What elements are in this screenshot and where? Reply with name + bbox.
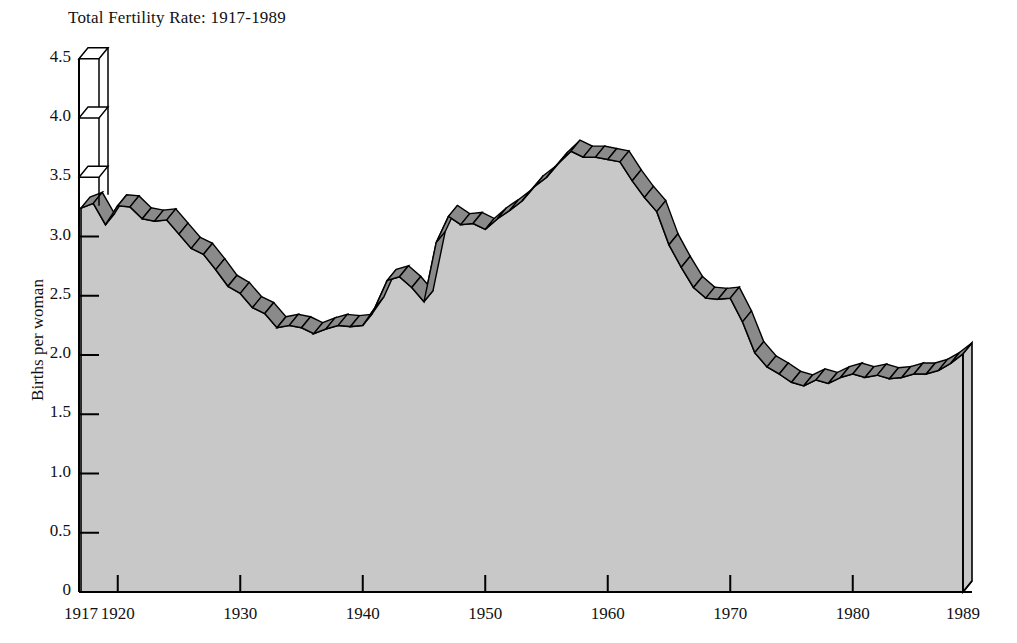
y-tick-label: 3.5 (23, 165, 71, 185)
x-tick-label: 1940 (333, 604, 393, 624)
x-tick-label: 1960 (578, 604, 638, 624)
x-tick-label: 1989 (933, 604, 993, 624)
y-tick-label: 4.0 (23, 106, 71, 126)
x-tick-label: 1980 (823, 604, 883, 624)
y-tick-label: 4.5 (23, 47, 71, 67)
plot-area (0, 0, 1017, 643)
x-tick-label: 1920 (88, 604, 148, 624)
y-tick-label: 2.0 (23, 343, 71, 363)
y-tick-label: 3.0 (23, 225, 71, 245)
y-tick-label: 0.5 (23, 521, 71, 541)
y-tick-label: 1.5 (23, 402, 71, 422)
area-right-side-face (963, 343, 972, 592)
y-tick-label: 2.5 (23, 284, 71, 304)
x-tick-label: 1930 (210, 604, 270, 624)
y-tick-label: 0 (23, 580, 71, 600)
fertility-rate-chart: Total Fertility Rate: 1917-1989 Births p… (0, 0, 1017, 643)
y-tick-shelf (79, 166, 108, 177)
y-tick-label: 1.0 (23, 462, 71, 482)
y-tick-shelf (79, 107, 108, 118)
y-axis-top-shelf (79, 48, 108, 59)
x-tick-label: 1950 (455, 604, 515, 624)
x-tick-label: 1970 (700, 604, 760, 624)
